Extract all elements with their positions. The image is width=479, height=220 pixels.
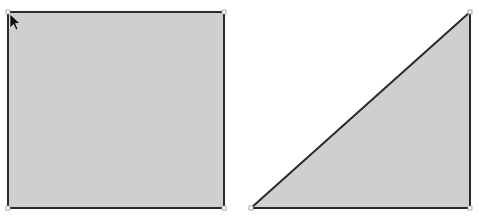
square-handle-top-left[interactable] [6, 10, 10, 14]
triangle-handle-top[interactable] [468, 10, 472, 14]
triangle-handle-bottom-right[interactable] [468, 206, 472, 210]
square-handle-bottom-left[interactable] [6, 206, 10, 210]
drawing-canvas[interactable] [0, 0, 479, 220]
square-shape[interactable] [8, 12, 224, 208]
square-handle-top-right[interactable] [222, 10, 226, 14]
triangle-shape[interactable] [251, 12, 470, 208]
square-handle-bottom-right[interactable] [222, 206, 226, 210]
triangle-handle-bottom-left[interactable] [249, 206, 253, 210]
